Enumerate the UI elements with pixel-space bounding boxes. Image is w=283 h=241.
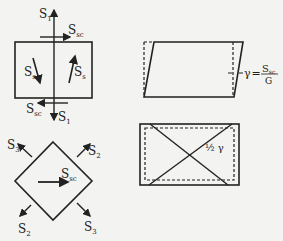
ssc-center-label: Ssc bbox=[61, 167, 77, 183]
ss-left-label: Ss bbox=[24, 65, 36, 81]
ss-right-label: Ss bbox=[74, 65, 86, 81]
s3-br-label: S3 bbox=[84, 220, 97, 236]
shear-stress-diagram: S1 Ssc Ss Ss Ssc S1 S3 S2 Ssc S2 S3 γ= S… bbox=[0, 0, 283, 241]
rotated-element: S3 S2 Ssc S2 S3 bbox=[7, 138, 101, 238]
gamma-denominator: G bbox=[265, 76, 272, 86]
s1-bottom-label: S1 bbox=[58, 110, 71, 126]
ssc-top-label: Ssc bbox=[68, 23, 84, 39]
s3-br-arrow bbox=[77, 203, 90, 216]
shear-element: S1 Ssc Ss Ss Ssc S1 bbox=[15, 7, 92, 126]
ssc-bottom-label: Ssc bbox=[26, 102, 42, 118]
half-gamma-label: ½ γ bbox=[205, 142, 224, 153]
gamma-equation: γ= bbox=[244, 67, 261, 80]
s2-bl-label: S2 bbox=[18, 222, 31, 238]
s2-bl-arrow bbox=[20, 205, 31, 216]
gamma-numerator: Ssc bbox=[262, 63, 276, 75]
s3-tl-label: S3 bbox=[7, 138, 20, 154]
s3-tl-arrow bbox=[18, 144, 32, 157]
diagonal-strain: ½ γ bbox=[140, 124, 239, 185]
s2-tr-label: S2 bbox=[88, 144, 101, 160]
diagram-svg: S1 Ssc Ss Ss Ssc S1 S3 S2 Ssc S2 S3 γ= S… bbox=[0, 0, 283, 241]
shear-deformation: γ= Ssc G bbox=[144, 42, 278, 97]
s1-top-label: S1 bbox=[39, 7, 52, 23]
